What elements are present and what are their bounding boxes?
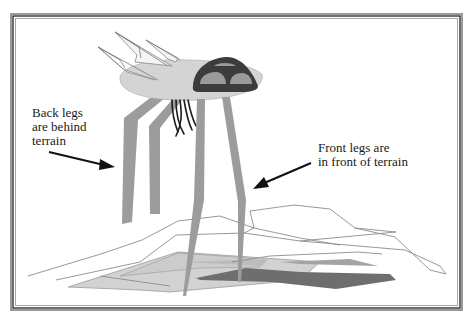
arrow-front-legs (253, 163, 311, 189)
creature-tentacles (172, 100, 196, 136)
front-legs-label: Front legs are in front of terrain (318, 141, 408, 169)
back-legs-label: Back legs are behind terrain (32, 106, 87, 148)
terrain (28, 205, 446, 292)
arrow-back-legs (49, 152, 115, 170)
